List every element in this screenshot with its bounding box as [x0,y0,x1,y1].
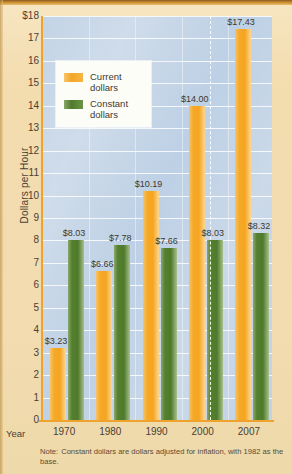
legend-label-constant-line1: Constant [90,98,128,109]
legend-item-constant-dollars: Constant dollars [64,98,128,120]
decorative-top-band [0,0,292,5]
bar-value-current-2000: $14.00 [178,94,212,104]
bar-current-1970 [50,348,66,420]
y-axis-tick-11: 11 [0,168,39,178]
bar-value-constant-2000: $8.03 [196,228,230,238]
note-lead: Note: [40,447,58,456]
y-axis-tick-4: 4 [0,325,39,335]
y-axis-tick-1: 1 [0,393,39,403]
chart-page: Dollars per Hour Year 012345678910111213… [0,0,292,474]
y-axis-tick-2: 2 [0,370,39,380]
bar-value-current-1970: $3.23 [39,336,73,346]
y-axis-tick-5: 5 [0,303,39,313]
bar-value-current-1980: $6.66 [85,259,119,269]
bar-current-1980 [96,271,112,420]
legend-label-current-dollars: Current dollars [90,71,122,93]
y-axis-tick-18: $18 [0,11,39,21]
y-axis-tick-9: 9 [0,213,39,223]
vertical-gridline [228,16,229,420]
chart-legend: Current dollars Constant dollars [56,61,151,127]
bar-value-constant-2007: $8.32 [242,221,276,231]
x-axis-tick-2000: 2000 [177,426,229,437]
x-axis-title: Year [6,428,25,439]
bar-current-2000 [189,106,205,420]
y-axis-tick-3: 3 [0,348,39,358]
y-axis-tick-14: 14 [0,101,39,111]
legend-label-current-line2: dollars [90,82,118,93]
legend-swatch-current-dollars [64,73,83,82]
y-axis-tick-0: 0 [0,415,39,425]
y-axis-tick-13: 13 [0,123,39,133]
y-axis-tick-7: 7 [0,258,39,268]
legend-label-current-line1: Current [90,71,122,82]
x-axis-tick-1980: 1980 [84,426,136,437]
y-axis-tick-6: 6 [0,280,39,290]
projection-divider-line [210,16,211,420]
bar-constant-1990 [161,248,177,420]
bar-value-current-1990: $10.19 [132,179,166,189]
vertical-gridline [182,16,183,420]
y-axis-tick-15: 15 [0,78,39,88]
y-axis-tick-16: 16 [0,56,39,66]
bar-value-current-2007: $17.43 [224,17,258,27]
bar-value-constant-1970: $8.03 [57,228,91,238]
bar-constant-2007 [253,233,269,420]
chart-note: Note:Constant dollars are dollars adjust… [40,447,284,467]
legend-label-constant-dollars: Constant dollars [90,98,128,120]
bar-constant-1970 [68,240,84,420]
bar-constant-1980 [114,245,130,420]
bar-current-1990 [143,191,159,420]
y-axis-tick-17: 17 [0,33,39,43]
bar-value-constant-1980: $7.78 [103,233,137,243]
y-axis-tick-12: 12 [0,146,39,156]
note-text: Constant dollars are dollars adjusted fo… [40,447,283,466]
legend-label-constant-line2: dollars [90,109,118,120]
x-axis-line [39,420,274,422]
bar-value-constant-1990: $7.66 [150,236,184,246]
x-axis-tick-1990: 1990 [131,426,183,437]
legend-item-current-dollars: Current dollars [64,71,122,93]
y-axis-tick-10: 10 [0,191,39,201]
legend-swatch-constant-dollars [64,100,83,109]
x-axis-tick-1970: 1970 [38,426,90,437]
x-axis-tick-2007: 2007 [223,426,275,437]
y-axis-tick-8: 8 [0,235,39,245]
